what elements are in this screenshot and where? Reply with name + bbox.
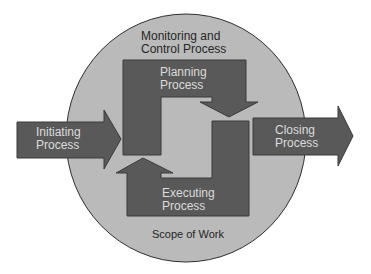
closing-process-label: Closing Process [275,124,318,150]
initiating-line-2: Process [36,139,81,152]
monitoring-line-2: Control Process [141,43,226,56]
planning-process-label: Planning Process [160,66,207,92]
scope-of-work-label: Scope of Work [152,228,224,241]
executing-process-label: Executing Process [162,187,215,213]
closing-line-2: Process [275,137,318,150]
monitoring-control-label: Monitoring and Control Process [141,30,226,56]
process-groups-diagram: Monitoring and Control Process Planning … [0,0,371,274]
initiating-process-label: Initiating Process [36,126,81,152]
planning-line-2: Process [160,79,207,92]
executing-line-2: Process [162,200,215,213]
